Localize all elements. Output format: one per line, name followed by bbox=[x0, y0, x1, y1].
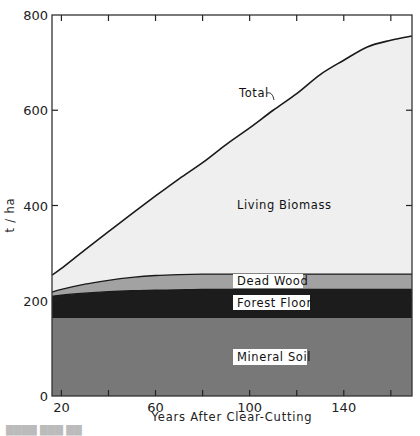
dead-wood-label: Dead Wood bbox=[237, 274, 308, 288]
total-label: Total bbox=[238, 86, 269, 100]
label-dead-wood: Dead Wood bbox=[233, 274, 308, 288]
stacked-area-chart: 0200400600800 2060100140 Years After Cle… bbox=[0, 0, 420, 436]
y-tick-label: 400 bbox=[23, 199, 48, 214]
figure-caption-fragment: ▇▇▇▇ ▇▇▇ ▇▇ bbox=[6, 424, 82, 435]
y-axis-tick-labels: 0200400600800 bbox=[23, 8, 48, 404]
forest-floor-label: Forest Floor bbox=[237, 296, 312, 310]
y-tick-label: 200 bbox=[23, 294, 48, 309]
y-axis-title: t / ha bbox=[3, 198, 17, 233]
living-biomass-label: Living Biomass bbox=[237, 198, 332, 212]
x-axis-title: Years After Clear-Cutting bbox=[151, 410, 313, 424]
y-tick-label: 0 bbox=[40, 389, 48, 404]
band-mineral-soil bbox=[52, 318, 412, 396]
area-bands bbox=[52, 36, 412, 396]
label-forest-floor: Forest Floor bbox=[233, 295, 312, 310]
total-annotation: Total bbox=[238, 86, 274, 100]
x-tick-label: 20 bbox=[53, 400, 70, 415]
label-mineral-soil: Mineral Soil bbox=[233, 349, 311, 365]
mineral-soil-label: Mineral Soil bbox=[237, 350, 311, 364]
y-tick-label: 800 bbox=[23, 8, 48, 23]
y-tick-label: 600 bbox=[23, 103, 48, 118]
label-living-biomass: Living Biomass bbox=[237, 198, 332, 212]
x-tick-label: 140 bbox=[331, 400, 356, 415]
